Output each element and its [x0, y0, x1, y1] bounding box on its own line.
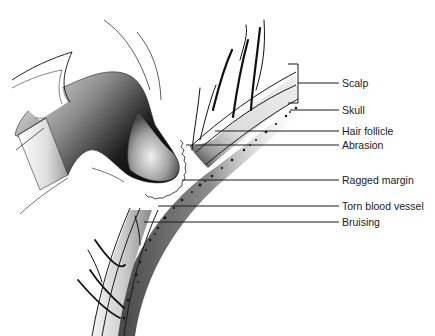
leader-lines	[144, 64, 339, 222]
laceration-diagram	[0, 0, 435, 336]
label-ragged-margin: Ragged margin	[342, 174, 414, 186]
label-hair-follicle: Hair follicle	[342, 125, 393, 137]
label-skull: Skull	[342, 104, 365, 116]
label-scalp: Scalp	[342, 77, 368, 89]
label-abrasion: Abrasion	[342, 139, 383, 151]
label-bruising: Bruising	[342, 216, 380, 228]
label-torn-blood-vessel: Torn blood vessel	[342, 200, 424, 212]
